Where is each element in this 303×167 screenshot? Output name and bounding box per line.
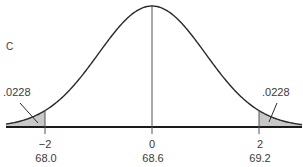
x-tick-label-68-6: 68.6 [142, 152, 163, 164]
x-tick-label-69-2: 69.2 [249, 152, 270, 164]
right-tail-shading [259, 111, 302, 127]
left-tail-area-label: .0228 [3, 86, 31, 98]
z-tick-label-minus2: −2 [39, 138, 52, 150]
z-tick-label-0: 0 [149, 138, 155, 150]
panel-label: C [6, 41, 13, 53]
left-tail-shading [6, 111, 45, 127]
right-tail-area-label: .0228 [262, 86, 290, 98]
x-tick-label-68-0: 68.0 [35, 152, 56, 164]
z-tick-label-plus2: 2 [257, 138, 263, 150]
normal-curve [6, 6, 302, 125]
